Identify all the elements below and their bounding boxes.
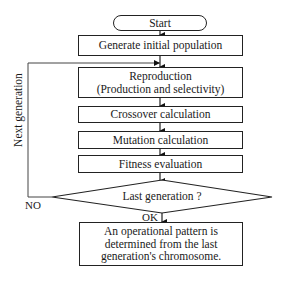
step-fitness-evaluation: Fitness evaluation	[78, 155, 243, 173]
step-reproduction: Reproduction (Production and selectivity…	[78, 67, 243, 98]
step-generate-initial-population: Generate initial population	[78, 35, 243, 56]
end-result-box: An operational pattern is determined fro…	[79, 222, 243, 266]
step-crossover-calculation: Crossover calculation	[78, 106, 243, 123]
decision-label: Last generation ?	[112, 190, 212, 202]
step-label: Fitness evaluation	[119, 158, 202, 171]
step-label-line1: Reproduction	[129, 70, 192, 83]
step-mutation-calculation: Mutation calculation	[78, 131, 243, 149]
step-label: Generate initial population	[99, 39, 222, 52]
next-generation-label: Next generation	[12, 70, 24, 150]
end-label-line3: generation's chromosome.	[101, 250, 221, 263]
end-label-line1: An operational pattern is	[104, 225, 218, 238]
start-terminal: Start	[113, 15, 207, 31]
start-label: Start	[149, 17, 171, 30]
end-label-line2: determined from the last	[105, 238, 218, 251]
step-label-line2: (Production and selectivity)	[97, 83, 225, 96]
step-label: Mutation calculation	[113, 134, 209, 147]
step-label: Crossover calculation	[111, 108, 211, 121]
no-branch-label: NO	[25, 199, 41, 211]
